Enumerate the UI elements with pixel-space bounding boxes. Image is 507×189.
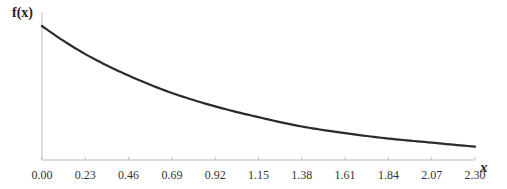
x-tick-label: 0.00 (32, 168, 53, 182)
x-tick-label: 1.84 (378, 168, 399, 182)
y-axis-label: f(x) (12, 5, 33, 21)
x-tick-label: 1.15 (248, 168, 269, 182)
x-tick-label: 1.38 (291, 168, 312, 182)
x-tick-label: 0.23 (75, 168, 96, 182)
x-tick-label: 0.46 (118, 168, 139, 182)
x-axis-tick-labels: 0.000.230.460.690.921.151.381.611.842.07… (32, 168, 486, 182)
x-axis-label: x (479, 159, 488, 175)
x-tick-label: 0.92 (205, 168, 226, 182)
data-line (42, 26, 475, 147)
chart: f(x) 0.000.230.460.690.921.151.381.611.8… (0, 0, 507, 189)
x-tick-label: 1.61 (335, 168, 356, 182)
x-tick-label: 2.07 (421, 168, 442, 182)
x-tick-label: 0.69 (161, 168, 182, 182)
